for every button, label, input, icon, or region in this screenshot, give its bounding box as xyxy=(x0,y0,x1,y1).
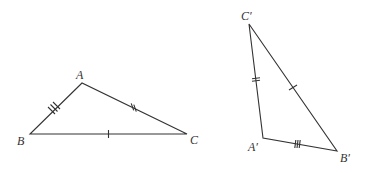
vertex-label-c: C xyxy=(190,133,199,147)
triangle-a-prime-b-prime-c-prime xyxy=(249,24,337,151)
tick-b-prime-c-prime-single xyxy=(289,85,297,90)
vertex-label-a: A xyxy=(75,68,84,82)
tick-a-prime-b-prime-triple xyxy=(295,140,300,148)
triangle-abc xyxy=(30,83,187,138)
vertex-label-a-prime: A′ xyxy=(247,140,258,154)
congruent-triangles-diagram: A B C C′ A′ B′ xyxy=(0,0,370,173)
vertex-label-c-prime: C′ xyxy=(241,9,252,23)
vertex-label-b: B xyxy=(17,134,25,148)
vertex-label-b-prime: B′ xyxy=(340,151,350,165)
tick-ab-triple xyxy=(48,102,60,114)
triangle-abc-outline xyxy=(30,83,187,134)
